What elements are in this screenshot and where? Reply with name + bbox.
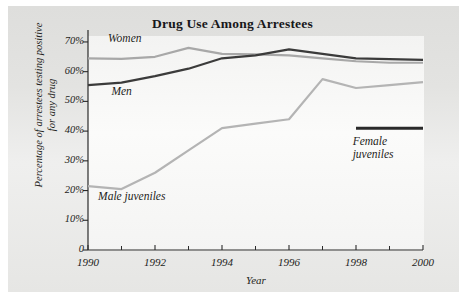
y-axis-tick-label: 60%: [38, 65, 84, 76]
x-axis-tick-label: 1994: [192, 256, 252, 268]
series-label-men: Men: [111, 85, 131, 98]
y-axis-tick-label: 50%: [38, 94, 84, 105]
y-axis-tick-label: 0: [38, 243, 84, 254]
series-label-male-juveniles: Male juveniles: [98, 190, 165, 203]
series-label-women: Women: [108, 32, 141, 45]
series-label-line2: juveniles: [353, 148, 394, 161]
y-axis-tick-label: 70%: [38, 35, 84, 46]
series-label-line1: Female: [353, 135, 394, 148]
x-axis-tick-label: 1996: [259, 256, 319, 268]
x-axis-tick-label: 1998: [326, 256, 386, 268]
series-line-men: [88, 49, 423, 85]
chart-figure: Drug Use Among Arrestees Percentage of a…: [0, 0, 465, 300]
series-label-female-juveniles: Femalejuveniles: [353, 135, 394, 161]
x-axis-tick-label: 2000: [393, 256, 453, 268]
y-axis-tick-label: 40%: [38, 124, 84, 135]
y-axis-tick-label: 20%: [38, 184, 84, 195]
y-axis-tick-label: 10%: [38, 213, 84, 224]
y-axis-tick-label: 30%: [38, 154, 84, 165]
x-axis-tick-label: 1990: [58, 256, 118, 268]
x-axis-tick-label: 1992: [125, 256, 185, 268]
